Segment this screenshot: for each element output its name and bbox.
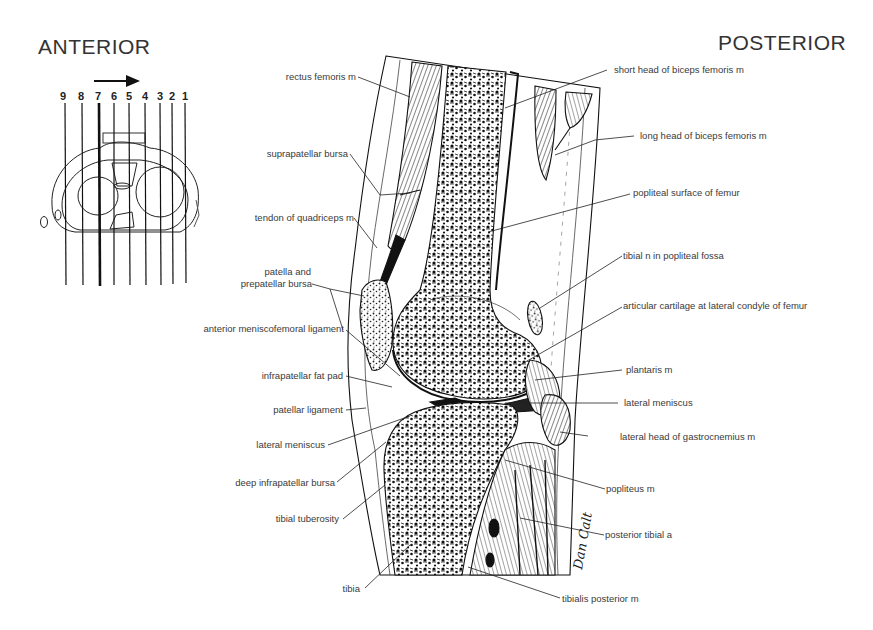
label-rectus-femoris: rectus femoris m — [286, 71, 356, 83]
label-articular-cartilage: articular cartilage at lateral condyle o… — [623, 300, 807, 312]
label-short-head-biceps-femoris: short head of biceps femoris m — [614, 64, 744, 76]
label-prepatellar-bursa: prepatellar bursa — [241, 278, 312, 290]
label-lateral-meniscus-left: lateral meniscus — [256, 439, 325, 451]
label-lateral-meniscus-right: lateral meniscus — [624, 397, 693, 409]
anatomy-drawing: Dan Calt — [0, 0, 873, 630]
label-lateral-head-gastrocnemius: lateral head of gastrocnemius m — [620, 431, 755, 443]
section-line — [185, 103, 186, 283]
section-lines — [65, 103, 186, 286]
label-suprapatellar-bursa: suprapatellar bursa — [267, 148, 348, 160]
label-popliteal-surface-of-femur: popliteal surface of femur — [633, 187, 740, 199]
section-line — [172, 103, 173, 284]
label-anterior-meniscofemoral-ligament: anterior meniscofemoral ligament — [204, 323, 344, 335]
label-patellar-ligament: patellar ligament — [273, 404, 343, 416]
femoral-condyle-left — [78, 177, 118, 215]
artist-signature: Dan Calt — [570, 510, 595, 571]
cross-section-key — [41, 133, 200, 232]
label-tibial-tuberosity: tibial tuberosity — [276, 513, 339, 525]
knee-cross-section-outline — [52, 142, 199, 232]
section-line-highlighted — [99, 103, 100, 286]
label-tibial-nerve: tibial n in popliteal fossa — [623, 250, 724, 262]
label-posterior-tibial-artery: posterior tibial a — [605, 529, 672, 541]
label-plantaris: plantaris m — [626, 364, 672, 376]
label-tibia: tibia — [343, 583, 360, 595]
label-long-head-biceps-femoris: long head of biceps femoris m — [640, 130, 767, 142]
section-line — [160, 103, 161, 285]
section-line — [145, 103, 146, 285]
label-infrapatellar-fat-pad: infrapatellar fat pad — [262, 370, 343, 382]
label-tibialis-posterior: tibialis posterior m — [562, 593, 639, 605]
label-tendon-of-quadriceps: tendon of quadriceps m — [255, 212, 354, 224]
label-patella: patella and — [265, 266, 311, 278]
section-line — [82, 103, 83, 285]
label-deep-infrapatellar-bursa: deep infrapatellar bursa — [235, 477, 335, 489]
label-popliteus: popliteus m — [606, 483, 655, 495]
section-line — [129, 103, 130, 285]
sagittal-knee-section — [348, 56, 600, 575]
posterior-tibial-artery — [489, 519, 499, 537]
section-line — [65, 103, 66, 285]
